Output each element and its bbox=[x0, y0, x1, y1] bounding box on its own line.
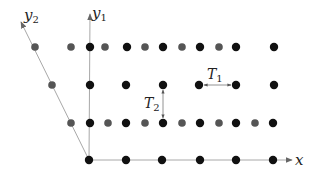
lattice-point-primary bbox=[122, 81, 130, 89]
lattice-point-secondary bbox=[31, 43, 39, 51]
lattice-point-primary bbox=[159, 43, 167, 51]
lattice-point-primary bbox=[232, 119, 240, 127]
lattice-point-primary bbox=[232, 43, 240, 51]
lattice-point-primary bbox=[123, 43, 131, 51]
lattice-point-secondary bbox=[48, 81, 56, 89]
lattice-point-secondary bbox=[215, 43, 223, 51]
lattice-point-primary bbox=[196, 156, 204, 164]
lattice-point-secondary bbox=[67, 119, 75, 127]
lattice-point-primary bbox=[196, 43, 204, 51]
lattice-point-primary bbox=[269, 156, 277, 164]
lattice-point-primary bbox=[86, 81, 94, 89]
lattice-point-primary bbox=[270, 43, 278, 51]
lattice-point-secondary bbox=[251, 119, 259, 127]
lattice-point-secondary bbox=[215, 119, 223, 127]
y1-axis-label: y1 bbox=[91, 4, 107, 23]
lattice-point-secondary bbox=[104, 119, 112, 127]
lattice-point-secondary bbox=[178, 119, 186, 127]
lattice-point-secondary bbox=[178, 43, 186, 51]
lattice-point-primary bbox=[159, 119, 167, 127]
lattice-point-primary bbox=[270, 81, 278, 89]
lattice-point-primary bbox=[86, 43, 94, 51]
lattice-point-primary bbox=[122, 119, 130, 127]
y2-axis-label: y2 bbox=[23, 6, 39, 25]
lattice-point-primary bbox=[159, 81, 167, 89]
lattice-point-primary bbox=[196, 119, 204, 127]
t2-label: T2 bbox=[144, 95, 160, 113]
lattice-point-primary bbox=[232, 81, 240, 89]
lattice-point-primary bbox=[86, 119, 94, 127]
lattice-point-secondary bbox=[141, 43, 149, 51]
y2-axis-line bbox=[21, 22, 89, 160]
lattice-point-primary bbox=[269, 119, 277, 127]
lattice-point-primary bbox=[85, 156, 93, 164]
lattice-diagram: x y1 y2 T1 T2 bbox=[0, 0, 319, 174]
annotations bbox=[163, 85, 231, 118]
x-axis-label: x bbox=[295, 151, 304, 169]
lattice-point-primary bbox=[232, 156, 240, 164]
lattice-point-primary bbox=[158, 156, 166, 164]
axes bbox=[21, 14, 292, 160]
lattice-point-primary bbox=[195, 81, 203, 89]
lattice-point-primary bbox=[122, 156, 130, 164]
t1-label: T1 bbox=[207, 66, 223, 84]
lattice-point-secondary bbox=[67, 43, 75, 51]
lattice-point-secondary bbox=[101, 43, 109, 51]
lattice-point-secondary bbox=[141, 119, 149, 127]
